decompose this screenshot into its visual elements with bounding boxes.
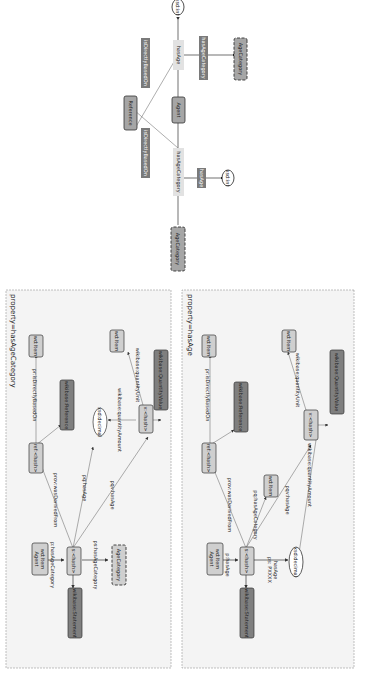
node-v-hash-label: v:<hash>	[143, 407, 149, 432]
node-ref-hash-2-label: ref:<hash>	[206, 444, 212, 473]
node-wd-item-unit-2-label: wd:Item	[286, 331, 292, 351]
panel-hasage-title: property=hasAge	[186, 294, 194, 356]
edge-label-ps-hasagecategory: ps:hasAgeCategory	[92, 541, 99, 590]
xsd-int-top-label: xsd:int	[175, 0, 181, 16]
edge-label-prov-wasderivedfrom: prov:wasDerivedFrom	[52, 473, 59, 527]
edge-label-prov-wasderivedfrom-2: prov:wasDerivedFrom	[226, 478, 233, 532]
figure: xsd:int hasAge Agent hasAgeCategory AgeC…	[0, 0, 366, 675]
edge-label-pq-hasagecategory: pq:hasAgeCategory	[252, 490, 259, 539]
node-wd-item-cat-label: wd:Item	[268, 476, 274, 496]
agecategory-top-label: AgeCategory	[174, 233, 181, 266]
edge-label-p-hasagecategory: p:hasAgeCategory	[49, 542, 56, 588]
edge-label-quantityamount: wikibase:quantityAmount	[116, 388, 123, 452]
node-wd-item-agent-2-line2: Agent	[208, 552, 215, 567]
isdirectlybasedon-label-2: isDirectlyBasedOn	[142, 130, 149, 176]
xsd-int-bottom-label: xsd:int	[225, 170, 231, 187]
panel-hasage: property=hasAge wd:Item Agent s:<hash> w…	[182, 290, 354, 668]
isdirectlybasedon-label-1: isDirectlyBasedOn	[142, 40, 149, 86]
edge-label-quantityamount-2: wikibase:quantityAmount	[306, 443, 313, 507]
node-xsd-decimal-2-label: xsd:decimal	[293, 547, 299, 577]
hasage-edge-label: hasAge	[198, 169, 205, 188]
edge-label-ps-pxxxx: ps: PXXXX	[266, 557, 273, 583]
node-wd-item-ref-label: wd:Item	[33, 336, 39, 356]
node-wd-item-ref-2-label: wd:Item	[206, 336, 212, 356]
node-wikibase-reference-label: wikibase:Reference	[64, 381, 70, 430]
agent-node-label: Agent	[175, 103, 182, 118]
hasagecat-node-label: hasAgeCategory	[175, 151, 182, 192]
schema-diagram: xsd:int hasAge Agent hasAgeCategory AgeC…	[124, 0, 247, 271]
agecategory-right-label: AgeCategory	[237, 43, 244, 76]
edge-label-pqv-hasage-2: pqv:hasAge	[284, 485, 291, 514]
edge-label-quantityunit: wikibase:quantityUnit	[134, 348, 141, 402]
node-wd-item-unit-label: wd:Item	[114, 331, 120, 351]
panel-hasagecategory-title: property=hasAgeCategory	[9, 294, 17, 388]
node-agecategory-label: AgeCategory	[115, 549, 122, 582]
edge-label-quantityunit-2: wikibase:quantityUnit	[294, 353, 301, 407]
node-wikibase-reference-2-label: wikibase:Reference	[238, 383, 244, 432]
node-v-hash-2-label: v:<hash>	[308, 413, 314, 438]
node-s-hash-2-label: s:<hash>	[244, 549, 250, 574]
node-s-hash-label: s:<hash>	[71, 549, 77, 574]
hasagecategory-edge-label: hasAgeCategory	[200, 37, 207, 78]
edge-label-pr-isdirectlybasedon-2: pr:isDirectlyBasedOn	[204, 369, 211, 422]
edge-label-pr-isdirectlybasedon: pr:isDirectlyBasedOn	[31, 369, 38, 422]
edge-label-p-hasage: p:hasAge	[224, 553, 231, 576]
node-ref-hash-label: ref:<hash>	[33, 444, 39, 473]
node-quantity-value-label: wikibase:QuantityValue	[157, 351, 164, 410]
edge-label-pq-hasage: pq:hasAge	[81, 475, 88, 502]
panel-hasagecategory: property=hasAgeCategory wd:Item Agent s:…	[6, 290, 171, 668]
reference-node-label: Reference	[128, 100, 134, 125]
edge-label-pqv-hasage: pqv:hasAge	[109, 480, 116, 509]
node-statement-label: wikibase:Statement	[72, 588, 78, 638]
node-quantity-value-2-label: wikibase:QuantityValue	[333, 353, 340, 412]
hasage-node-label: hasAge	[175, 46, 182, 65]
node-xsd-decimal-label: xsd:decimal	[97, 407, 103, 437]
ref-edge-right	[134, 55, 178, 130]
edge-label-ps-hasage: hasAge	[272, 561, 279, 580]
ref-edge-left	[134, 110, 178, 148]
node-statement-2-label: wikibase:Statement	[244, 588, 250, 638]
node-wd-item-agent-line2: Agent	[33, 552, 40, 567]
